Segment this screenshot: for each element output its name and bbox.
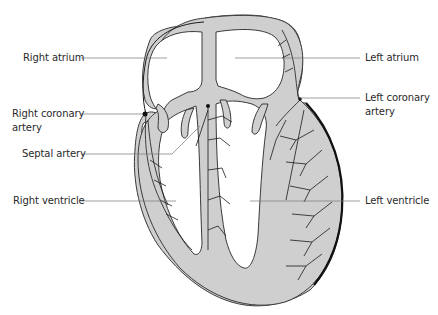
- label-right-coronary-line2: artery: [12, 121, 84, 135]
- label-septal-artery: Septal artery: [22, 147, 86, 161]
- label-right-coronary-artery: Right coronary artery: [12, 107, 84, 135]
- label-right-coronary-line1: Right coronary: [12, 107, 84, 121]
- label-right-ventricle: Right ventricle: [13, 194, 85, 208]
- label-left-coronary-line1: Left coronary: [365, 91, 430, 105]
- label-left-coronary-artery: Left coronary artery: [365, 91, 430, 119]
- label-right-atrium: Right atrium: [23, 51, 84, 65]
- right-coronary-origin-dot: [143, 112, 148, 117]
- septal-artery-origin-dot: [206, 104, 210, 108]
- label-left-atrium: Left atrium: [365, 51, 419, 65]
- left-atrium-chamber: [216, 30, 284, 99]
- label-left-coronary-line2: artery: [365, 105, 430, 119]
- label-left-ventricle: Left ventricle: [365, 194, 429, 208]
